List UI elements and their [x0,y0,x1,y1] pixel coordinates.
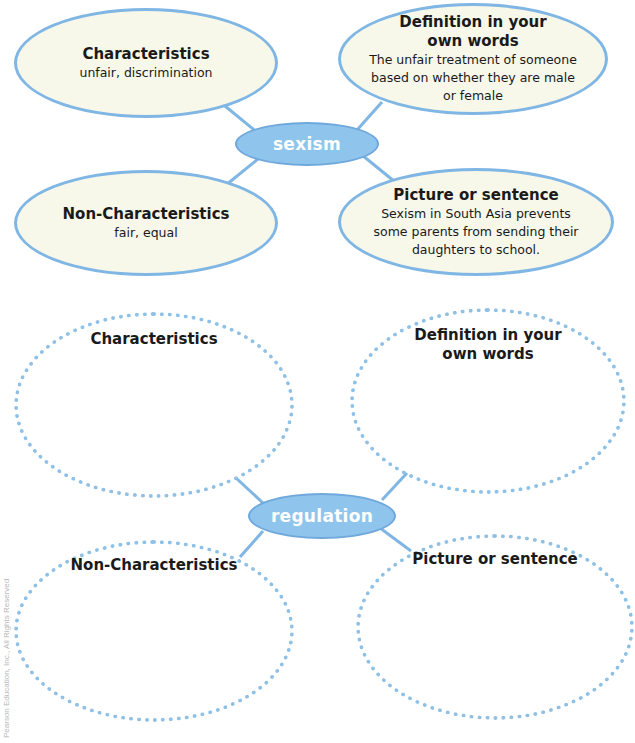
non-characteristics-title: Non-Characteristics [63,205,230,224]
example-non-characteristics-bubble: Non-Characteristics fair, equal [14,170,278,276]
picture-text-line3: daughters to school. [412,241,540,259]
picture-title: Picture or sentence [412,550,577,569]
blank-non-characteristics-bubble[interactable]: Non-Characteristics [14,540,294,722]
definition-title-line2: own words [442,345,533,364]
picture-text-line1: Sexism in South Asia prevents [381,205,571,223]
example-center-term: sexism [235,122,379,166]
center-term-label: regulation [271,506,373,526]
center-term-label: sexism [273,134,341,154]
blank-characteristics-bubble[interactable]: Characteristics [14,312,294,498]
non-characteristics-text: fair, equal [114,224,177,242]
characteristics-title: Characteristics [82,45,209,64]
definition-text-line1: The unfair treatment of someone [369,51,577,69]
definition-title-line1: Definition in your [414,326,561,345]
blank-center-term: regulation [248,493,396,539]
copyright-credit: Pearson Education, Inc., All Rights Rese… [2,579,11,738]
definition-text-line3: or female [443,87,503,105]
characteristics-title: Characteristics [90,330,217,349]
blank-definition-bubble[interactable]: Definition in your own words [350,308,626,494]
example-characteristics-bubble: Characteristics unfair, discrimination [14,8,278,118]
definition-title-line1: Definition in your [399,13,546,32]
blank-picture-bubble[interactable]: Picture or sentence [356,534,634,720]
example-definition-bubble: Definition in your own words The unfair … [338,3,608,115]
picture-title: Picture or sentence [393,186,558,205]
example-picture-bubble: Picture or sentence Sexism in South Asia… [338,168,614,276]
definition-title-line2: own words [427,32,518,51]
non-characteristics-title: Non-Characteristics [71,556,238,575]
definition-text-line2: based on whether they are male [371,69,575,87]
picture-text-line2: some parents from sending their [373,223,578,241]
characteristics-text: unfair, discrimination [79,64,212,82]
